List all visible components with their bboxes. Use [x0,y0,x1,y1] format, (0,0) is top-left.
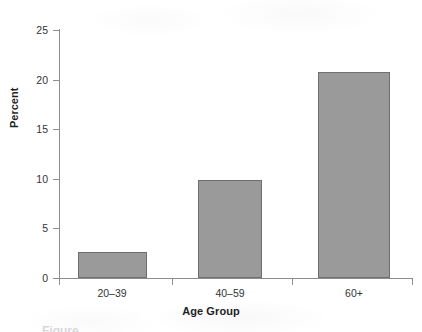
x-axis-category-label-20-39: 20–39 [82,288,142,299]
x-axis-title: Age Group [0,305,422,317]
y-axis-title: Percent [8,88,20,128]
bar-60-plus [318,72,390,278]
y-axis-tick-label-5: 5 [20,223,48,234]
y-axis-tick-label-10: 10 [20,174,48,185]
x-axis-tick-start [59,279,60,285]
figure-caption-cropped: Figure [42,325,382,332]
x-axis-tick-end [412,279,413,285]
y-axis-tick-label-25: 25 [20,25,48,36]
y-axis-tick-label-15: 15 [20,124,48,135]
bar-40-59 [198,180,262,278]
x-axis-category-label-40-59: 40–59 [200,288,260,299]
x-axis-category-label-60-plus: 60+ [324,288,384,299]
figure-panel: 25 20 15 10 5 0 20–39 40–59 60+ Age Grou… [0,0,422,332]
y-axis-tick-label-0: 0 [20,273,48,284]
x-axis-tick-boundary-2 [292,279,293,285]
x-axis-tick-boundary-1 [172,279,173,285]
bar-20-39 [78,252,147,278]
y-axis-tick-label-20: 20 [20,75,48,86]
